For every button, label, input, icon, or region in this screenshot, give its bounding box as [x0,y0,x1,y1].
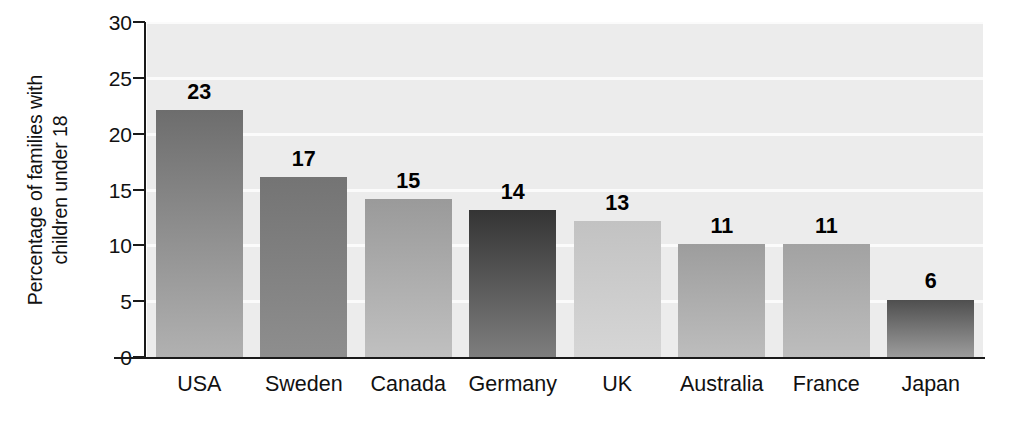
bar-france [783,244,870,357]
bar-chart-figure: Percentage of families with children und… [0,0,1014,431]
bar-canada [365,199,452,357]
bar-value-label-japan: 6 [925,271,937,293]
bar-sweden [260,177,347,357]
y-axis-title-line-2: children under 18 [48,75,73,305]
gridline [147,77,983,80]
x-axis-line [114,357,985,359]
y-axis-tick-labels: 051015202530 [90,0,132,431]
bar-australia [678,244,765,357]
bar-uk [574,221,661,357]
y-axis-title-line-1: Percentage of families with [24,75,46,305]
x-axis-label-japan: Japan [901,372,960,396]
y-axis-tick-label: 25 [90,67,132,88]
y-axis-title: Percentage of families with children und… [0,0,96,380]
y-axis-tick-mark [133,21,145,23]
y-axis-tick-label: 5 [90,291,132,312]
bar-value-label-germany: 14 [501,182,525,204]
y-axis-tick-mark [133,189,145,191]
x-axis-label-usa: USA [177,372,221,396]
gridline [147,22,983,24]
bar-germany [469,210,556,357]
bar-value-label-australia: 11 [710,216,733,238]
y-axis-tick-mark [133,133,145,135]
x-axis-label-sweden: Sweden [265,372,343,396]
gridline [147,133,983,136]
bar-usa [156,110,243,357]
y-axis-tick-mark [133,356,145,358]
bar-value-label-usa: 23 [187,82,211,104]
bar-value-label-sweden: 17 [292,149,316,171]
x-axis-label-germany: Germany [469,372,557,396]
y-axis-tick-label: 30 [90,12,132,33]
y-axis-tick-mark [133,244,145,246]
bar-value-label-france: 11 [815,216,838,238]
y-axis-tick-label: 15 [90,179,132,200]
y-axis-tick-mark [133,77,145,79]
plot-area [147,22,983,357]
y-axis-tick-label: 20 [90,123,132,144]
x-axis-label-uk: UK [602,372,632,396]
x-axis-label-france: France [793,372,860,396]
x-axis-label-canada: Canada [371,372,446,396]
bar-value-label-canada: 15 [396,171,420,193]
y-axis-tick-label: 10 [90,235,132,256]
bar-value-label-uk: 13 [605,193,629,215]
y-axis-tick-mark [133,300,145,302]
bar-japan [887,300,974,358]
x-axis-label-australia: Australia [680,372,764,396]
